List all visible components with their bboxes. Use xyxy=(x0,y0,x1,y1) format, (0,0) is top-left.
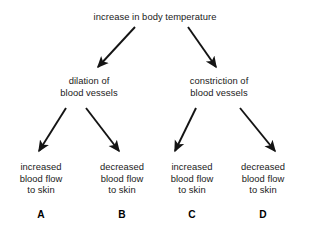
node-b-line-1: decreased xyxy=(87,161,157,173)
arrow-dilation-to-a xyxy=(39,108,66,151)
node-a-line-1: increased xyxy=(6,161,76,173)
node-a-line-2: blood flow xyxy=(6,173,76,185)
node-dilation-line-1: dilation of xyxy=(44,75,134,87)
node-b-line-3: to skin xyxy=(87,184,157,196)
node-c-line-1: increased xyxy=(157,161,227,173)
node-d-line-3: to skin xyxy=(228,184,298,196)
node-option-a-text: increased blood flow to skin xyxy=(6,161,76,196)
flow-diagram: increase in body temperature dilation of… xyxy=(0,0,311,230)
node-constriction-line-1: constriction of xyxy=(172,75,266,87)
node-constriction-of-blood-vessels: constriction of blood vessels xyxy=(172,75,266,98)
node-root-increase-body-temperature: increase in body temperature xyxy=(60,11,250,23)
node-option-b-text: decreased blood flow to skin xyxy=(87,161,157,196)
option-label-a: A xyxy=(6,209,76,220)
node-c-line-3: to skin xyxy=(157,184,227,196)
node-c-line-2: blood flow xyxy=(157,173,227,185)
option-label-c: C xyxy=(157,209,227,220)
arrow-root-to-constriction xyxy=(188,27,216,67)
node-d-line-2: blood flow xyxy=(228,173,298,185)
node-a-line-3: to skin xyxy=(6,184,76,196)
node-constriction-line-2: blood vessels xyxy=(172,87,266,99)
arrow-constriction-to-c xyxy=(175,108,196,151)
node-dilation-line-2: blood vessels xyxy=(44,87,134,99)
arrow-dilation-to-b xyxy=(86,108,119,151)
node-root-line-1: increase in body temperature xyxy=(60,11,250,23)
arrow-root-to-dilation xyxy=(98,27,135,67)
node-dilation-of-blood-vessels: dilation of blood vessels xyxy=(44,75,134,98)
arrow-constriction-to-d xyxy=(240,108,275,151)
node-d-line-1: decreased xyxy=(228,161,298,173)
option-label-d: D xyxy=(228,209,298,220)
option-label-b: B xyxy=(87,209,157,220)
node-option-d-text: decreased blood flow to skin xyxy=(228,161,298,196)
node-option-c-text: increased blood flow to skin xyxy=(157,161,227,196)
node-b-line-2: blood flow xyxy=(87,173,157,185)
arrow-layer xyxy=(0,0,311,230)
